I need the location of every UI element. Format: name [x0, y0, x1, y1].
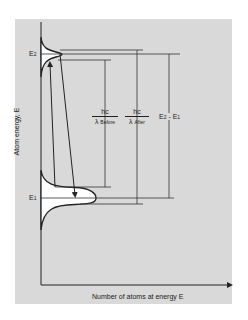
- energy-level-diagram: [0, 0, 248, 320]
- absorption-arrow: [50, 64, 55, 187]
- x-axis-label: Number of atoms at energy E: [92, 293, 183, 300]
- label-e1: E1: [29, 194, 36, 201]
- fraction-after: hc λ After: [125, 108, 149, 125]
- upper-distribution-curve: [41, 37, 62, 77]
- y-axis-label: Atom energy, E: [13, 102, 20, 162]
- label-e2: E2: [29, 50, 36, 57]
- lower-distribution-curve: [41, 170, 96, 230]
- fraction-before: hc λ Before: [92, 108, 118, 125]
- label-energy-difference: E2 - E1: [158, 113, 181, 120]
- emission-arrow: [60, 54, 75, 195]
